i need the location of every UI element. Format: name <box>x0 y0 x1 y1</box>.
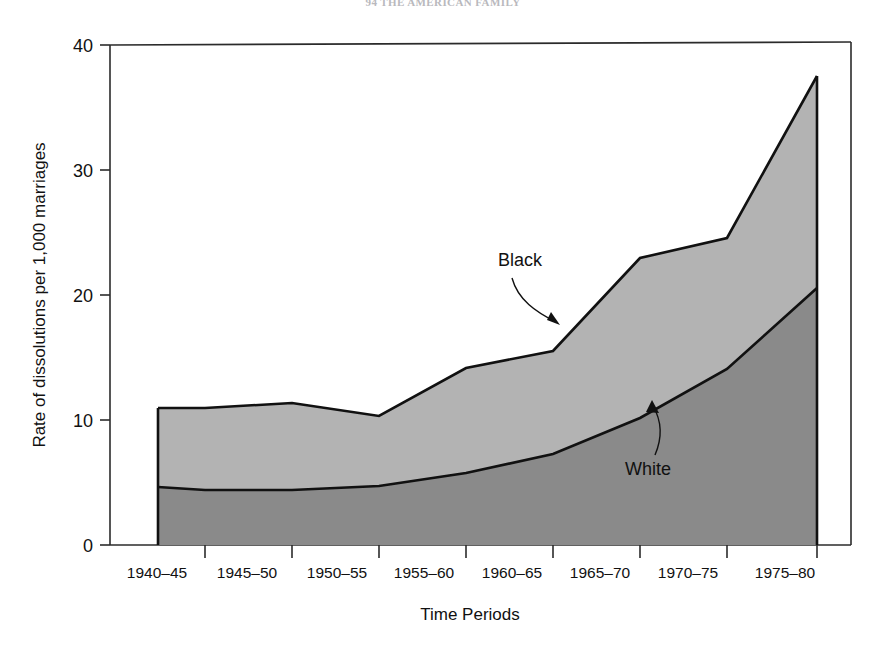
annotation-black: Black <box>498 250 560 325</box>
y-axis-tick-labels: 0 10 20 30 40 <box>73 36 93 556</box>
annotation-white-label: White <box>625 459 671 479</box>
chart-figure: 0 10 20 30 40 Rate of dissolutions per 1… <box>0 0 886 646</box>
y-tick-label-20: 20 <box>73 286 93 306</box>
x-tick-label-6: 1965–70 <box>570 564 631 581</box>
y-tick-label-10: 10 <box>73 411 93 431</box>
x-tick-label-2: 1945–50 <box>217 564 278 581</box>
x-axis-tick-labels: 1940–45 1945–50 1950–55 1955–60 1960–65 … <box>127 564 816 581</box>
y-axis-title: Rate of dissolutions per 1,000 marriages <box>30 142 49 447</box>
annotation-black-arrowhead <box>547 312 560 325</box>
y-tick-label-40: 40 <box>73 36 93 56</box>
x-tick-label-7: 1970–75 <box>658 564 718 581</box>
x-axis-ticks <box>205 545 817 558</box>
x-tick-label-4: 1955–60 <box>394 564 455 581</box>
figure-page: 94 THE AMERICAN FAMILY <box>0 0 886 646</box>
plot-top-border <box>110 42 851 45</box>
y-axis-ticks <box>100 45 110 545</box>
x-tick-label-1: 1940–45 <box>127 564 187 581</box>
x-axis-title: Time Periods <box>420 605 520 624</box>
x-tick-label-3: 1950–55 <box>307 564 367 581</box>
stacked-area-chart: 0 10 20 30 40 Rate of dissolutions per 1… <box>0 0 886 646</box>
x-tick-label-8: 1975–80 <box>755 564 816 581</box>
y-tick-label-30: 30 <box>73 161 93 181</box>
annotation-black-label: Black <box>498 250 543 270</box>
x-tick-label-5: 1960–65 <box>482 564 542 581</box>
y-tick-label-0: 0 <box>83 536 93 556</box>
